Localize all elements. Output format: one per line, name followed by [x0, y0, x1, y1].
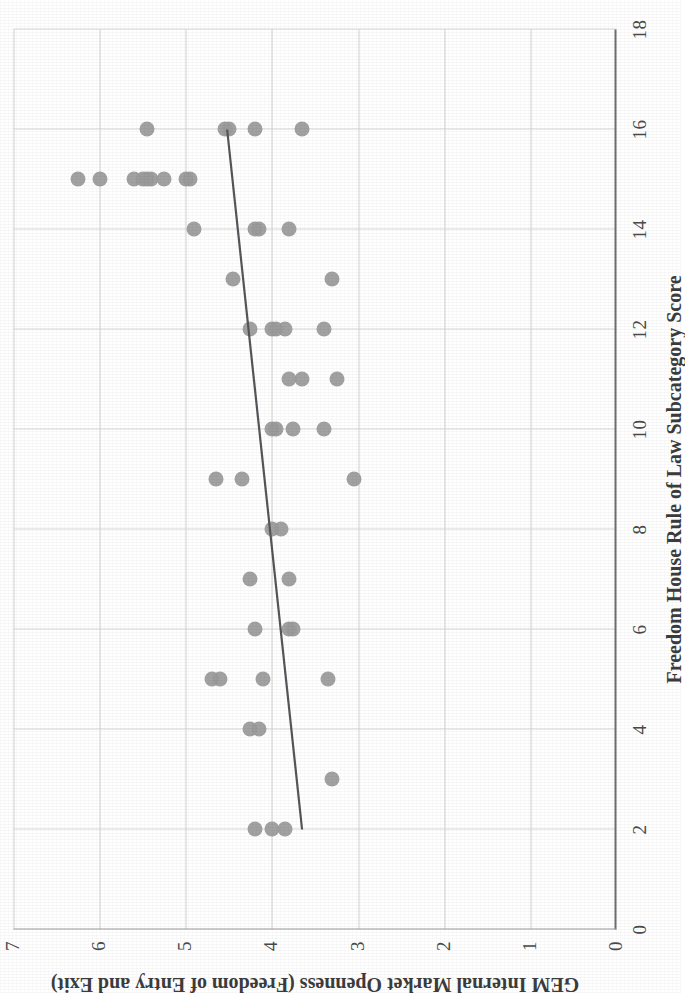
data-point: [186, 222, 201, 237]
y-tick-label: 5: [173, 941, 195, 975]
data-point: [346, 472, 361, 487]
data-point: [277, 322, 292, 337]
data-point: [221, 122, 236, 137]
data-point: [268, 422, 283, 437]
data-point: [212, 672, 227, 687]
gridline-vertical: [13, 28, 616, 29]
x-tick-label: 0: [628, 909, 650, 949]
y-tick-label: 7: [1, 941, 23, 975]
y-tick-label: 1: [518, 941, 540, 975]
gridline-horizontal: [185, 29, 186, 929]
data-point: [156, 172, 171, 187]
data-point: [247, 822, 262, 837]
gridline-vertical: [13, 428, 616, 429]
data-point: [70, 172, 85, 187]
data-point: [294, 372, 309, 387]
gridline-vertical: [13, 228, 616, 229]
data-point: [234, 472, 249, 487]
data-point: [242, 322, 257, 337]
data-point: [324, 772, 339, 787]
gridline-horizontal: [99, 29, 100, 929]
data-point: [294, 122, 309, 137]
y-axis-title: GEM Internal Market Openness (Freedom of…: [13, 972, 616, 993]
data-point: [92, 172, 107, 187]
gridline-vertical: [13, 328, 616, 329]
gridline-horizontal: [444, 29, 445, 929]
x-axis-line: [614, 29, 616, 929]
data-point: [285, 622, 300, 637]
trendline: [13, 29, 616, 929]
data-point: [247, 122, 262, 137]
x-tick-label: 10: [628, 409, 650, 449]
data-point: [285, 422, 300, 437]
data-point: [316, 422, 331, 437]
gridline-horizontal: [530, 29, 531, 929]
data-point: [329, 372, 344, 387]
data-point: [139, 122, 154, 137]
x-tick-label: 16: [628, 109, 650, 149]
gridline-horizontal: [13, 29, 14, 929]
gridline-vertical: [13, 728, 616, 729]
data-point: [320, 672, 335, 687]
data-point: [208, 472, 223, 487]
y-tick-label: 3: [346, 941, 368, 975]
gridline-horizontal: [271, 29, 272, 929]
data-point: [251, 222, 266, 237]
data-point: [225, 272, 240, 287]
y-tick-label: 0: [604, 941, 626, 975]
data-point: [277, 822, 292, 837]
data-point: [281, 222, 296, 237]
data-point: [247, 622, 262, 637]
data-point: [316, 322, 331, 337]
data-point: [281, 572, 296, 587]
data-point: [255, 672, 270, 687]
data-point: [251, 722, 266, 737]
y-tick-label: 6: [87, 941, 109, 975]
y-tick-label: 4: [259, 941, 281, 975]
x-tick-label: 18: [628, 9, 650, 49]
data-point: [242, 572, 257, 587]
gridline-vertical: [13, 828, 616, 829]
x-tick-label: 2: [628, 809, 650, 849]
data-point: [273, 522, 288, 537]
gridline-vertical: [13, 528, 616, 529]
x-tick-label: 12: [628, 309, 650, 349]
data-point: [324, 272, 339, 287]
y-axis-line: [13, 928, 616, 929]
data-point: [182, 172, 197, 187]
x-tick-label: 6: [628, 609, 650, 649]
x-axis-title: Freedom House Rule of Law Subcategory Sc…: [662, 29, 685, 929]
x-tick-label: 14: [628, 209, 650, 249]
x-tick-label: 8: [628, 509, 650, 549]
gridline-vertical: [13, 128, 616, 129]
gridline-vertical: [13, 628, 616, 629]
plot-area: 024681012141618 01234567: [13, 29, 616, 929]
x-tick-label: 4: [628, 709, 650, 749]
y-tick-label: 2: [432, 941, 454, 975]
